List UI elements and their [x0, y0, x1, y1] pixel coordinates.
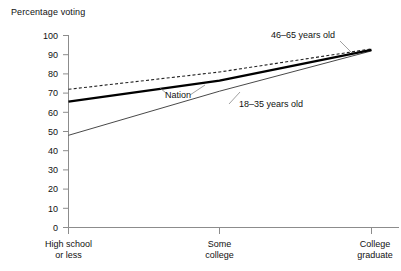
annotation-label-nation: Nation — [165, 90, 191, 100]
y-tick-label-90: 90 — [48, 50, 58, 60]
annotation-label-46-65: 46–65 years old — [271, 30, 335, 40]
x-label-college-graduate-line1: College — [360, 239, 391, 249]
x-label-high-school-line2: or less — [55, 250, 82, 260]
annotation-label-18-35: 18–35 years old — [239, 99, 303, 109]
y-axis-ticks — [63, 36, 69, 228]
line-chart-plot: 100 90 80 70 60 50 40 30 20 10 0 High sc… — [0, 0, 401, 271]
y-tick-label-100: 100 — [43, 31, 58, 41]
y-tick-label-0: 0 — [53, 223, 58, 233]
y-tick-label-60: 60 — [48, 108, 58, 118]
y-tick-label-40: 40 — [48, 146, 58, 156]
series-line-nation — [69, 50, 372, 102]
y-tick-label-50: 50 — [48, 127, 58, 137]
series-line-18-35-years-old — [69, 51, 372, 135]
y-axis-tick-labels: 100 90 80 70 60 50 40 30 20 10 0 — [43, 31, 58, 233]
x-label-some-college-line1: Some — [208, 239, 232, 249]
x-axis-category-labels: High school or less Some college College… — [45, 239, 393, 260]
x-label-some-college-line2: college — [205, 250, 234, 260]
leader-line-46-65 — [340, 41, 352, 53]
leader-line-nation-right — [190, 85, 205, 95]
x-axis-ticks — [69, 228, 372, 235]
y-tick-label-30: 30 — [48, 165, 58, 175]
chart-figure: Percentage voting 100 90 80 70 60 5 — [0, 0, 401, 271]
series-line-46-65-years-old — [69, 49, 372, 89]
y-tick-label-20: 20 — [48, 184, 58, 194]
y-tick-label-70: 70 — [48, 88, 58, 98]
y-tick-label-10: 10 — [48, 204, 58, 214]
x-label-college-graduate-line2: graduate — [357, 250, 393, 260]
x-label-high-school-line1: High school — [45, 239, 92, 249]
y-tick-label-80: 80 — [48, 69, 58, 79]
